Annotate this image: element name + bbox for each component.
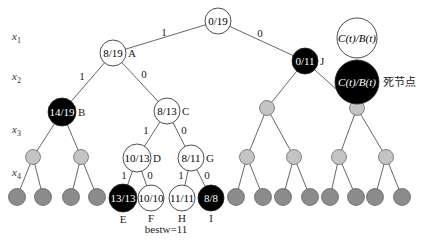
level-label-x4: x4 (11, 166, 21, 181)
leaf-node (255, 189, 272, 206)
level-label-x2: x2 (11, 70, 21, 85)
edge-label: 0 (147, 169, 153, 181)
unexplored-node (379, 150, 394, 165)
edge-label: 0 (257, 27, 263, 39)
unexplored-node (74, 150, 89, 165)
leaf-node (63, 189, 80, 206)
node-name: D (153, 152, 161, 164)
unexplored-node (332, 150, 347, 165)
legend: C(t)/B(t)C(t)/B(t)死节点 (335, 18, 416, 104)
tree-node-C: 8/13C (154, 98, 189, 124)
tree-node-B: 14/19B (48, 98, 85, 126)
tree-node-D: 10/13D (123, 144, 161, 172)
node-value: 11/11 (170, 192, 194, 204)
bestw-label: bestw=11 (145, 223, 187, 235)
tree-node-root: 0/19 (205, 8, 231, 34)
legend-live-label: C(t)/B(t) (338, 32, 376, 45)
unexplored-node (260, 101, 275, 116)
tree-node-H: 11/11H (169, 185, 195, 224)
tree-edge (247, 108, 267, 157)
leaf-node (394, 189, 411, 206)
node-name: A (128, 47, 136, 59)
node-name: E (120, 213, 127, 225)
leaf-node (322, 189, 339, 206)
tree-edge (267, 108, 294, 157)
node-value: 14/19 (49, 106, 75, 118)
node-value: 13/13 (110, 192, 136, 204)
node-value: 0/19 (208, 15, 228, 27)
edge-label: 1 (178, 169, 184, 181)
leaf-node (35, 189, 52, 206)
tree-node-G: 8/11G (178, 145, 214, 171)
edge-label: 1 (121, 169, 127, 181)
unexplored-node (287, 150, 302, 165)
leaf-node (9, 189, 26, 206)
edge-label: 0 (204, 169, 210, 181)
unexplored-node (26, 150, 41, 165)
legend-dead-label: C(t)/B(t) (338, 76, 376, 89)
level-label-x3: x3 (11, 123, 21, 138)
edge-label: 0 (181, 124, 187, 136)
tree-edge (357, 108, 386, 157)
node-value: 8/19 (103, 47, 123, 59)
leaf-node (367, 189, 384, 206)
tree-node-E: 13/13E (109, 184, 137, 225)
legend-dead-caption: 死节点 (383, 76, 416, 89)
tree-node-J: 0/11J (292, 48, 325, 74)
edge-label: 1 (161, 26, 167, 38)
tree-node-A: 8/19A (100, 40, 136, 66)
leaf-node (275, 189, 292, 206)
edge-label: 0 (141, 68, 147, 80)
node-name: C (182, 105, 189, 117)
leaf-node (228, 189, 245, 206)
level-label-x1: x1 (11, 30, 21, 45)
node-name: B (78, 106, 85, 118)
node-value: 8/11 (181, 152, 200, 164)
edge-label: 1 (143, 124, 149, 136)
tree-edge (339, 108, 357, 157)
level-axis-labels: x1x2x3x4 (11, 30, 21, 181)
node-name: I (209, 212, 213, 224)
node-name: G (206, 152, 214, 164)
node-value: 8/8 (204, 192, 219, 204)
leaf-node (302, 189, 319, 206)
node-value: 10/13 (124, 152, 150, 164)
node-value: 0/11 (295, 55, 314, 67)
unexplored-node (240, 150, 255, 165)
edge-label: 1 (79, 70, 85, 82)
node-value: 8/13 (157, 105, 177, 117)
node-value: 10/10 (138, 192, 164, 204)
node-name: J (320, 55, 325, 67)
leaf-node (89, 189, 106, 206)
tree-node-F: 10/10F (138, 185, 164, 224)
branch-and-bound-tree: 1010101010 0/198/19A0/11J14/19B8/13C10/1… (0, 0, 426, 240)
tree-node-I: 8/8I (198, 185, 224, 224)
leaf-node (348, 189, 365, 206)
